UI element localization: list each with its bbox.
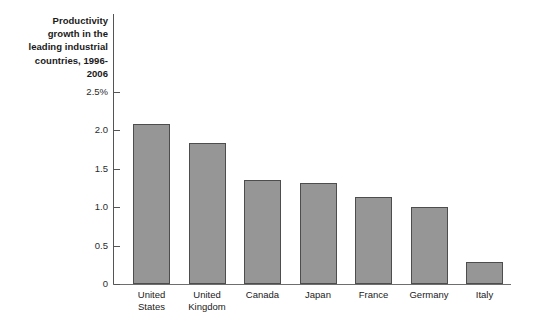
bars-layer (113, 14, 511, 284)
y-axis-tick-label-wrap: 1.5 (60, 164, 108, 174)
y-axis-tick-label-wrap: 2.0 (60, 125, 108, 135)
bar (355, 197, 392, 284)
x-axis-category-label: Italy (455, 289, 515, 301)
bar (411, 207, 448, 284)
y-axis-tick (114, 284, 120, 285)
bar-chart: Productivity growth in the leading indus… (0, 0, 535, 322)
chart-title: Productivity growth in the leading indus… (18, 14, 108, 80)
x-axis-category-label: Germany (399, 289, 459, 301)
x-axis-category-label: Canada (233, 289, 293, 301)
bar (466, 262, 503, 284)
x-axis-category-label: Japan (288, 289, 348, 301)
y-axis-tick-label: 2.5% (64, 87, 108, 97)
x-axis-line (113, 284, 511, 285)
bar (189, 143, 226, 284)
y-axis-tick-label-wrap: 2.5% (60, 87, 108, 97)
y-axis-tick-label: 1.0 (64, 202, 108, 212)
x-axis-category-label: United Kingdom (177, 289, 237, 312)
y-axis-tick-label-wrap: 0.5 (60, 241, 108, 251)
y-axis-tick-label: 0 (64, 279, 108, 289)
y-axis-tick-label: 0.5 (64, 241, 108, 251)
bar (133, 124, 170, 284)
y-axis-tick-label-wrap: 1.0 (60, 202, 108, 212)
bar (300, 183, 337, 284)
x-axis-category-label: United States (122, 289, 182, 312)
bar (244, 180, 281, 284)
y-axis-tick-label: 1.5 (64, 164, 108, 174)
y-axis-tick-label-wrap: 0 (60, 279, 108, 289)
x-axis-category-label: France (344, 289, 404, 301)
y-axis-tick-label: 2.0 (64, 125, 108, 135)
